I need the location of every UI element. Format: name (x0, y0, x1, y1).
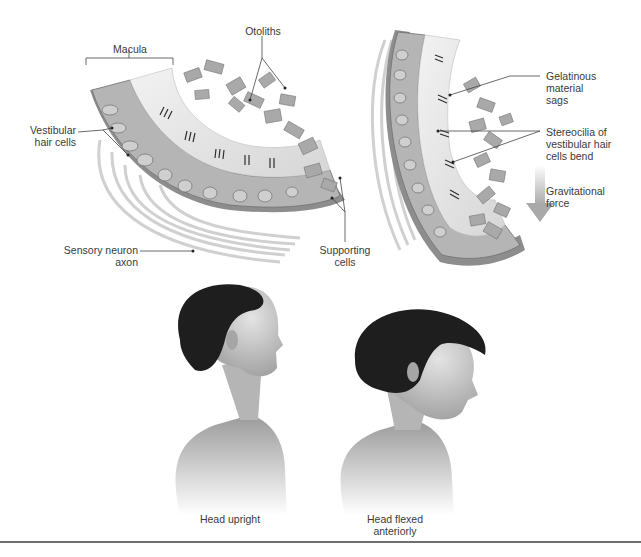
label-supporting-cells: Supporting cells (315, 244, 375, 268)
label-sensory-neuron-axon: Sensory neuron axon (45, 244, 138, 268)
label-gelatinous-material: Gelatinous material sags (546, 70, 636, 106)
macula-illustration (0, 0, 641, 557)
caption-head-upright: Head upright (180, 513, 280, 525)
bottom-divider (0, 541, 641, 543)
label-stereocilia: Stereocilia of vestibular hair cells ben… (546, 126, 641, 162)
head-flexed-illustration (341, 309, 486, 515)
label-vestibular-hair-cells: Vestibular hair cells (10, 124, 76, 148)
label-macula: Macula (105, 43, 155, 55)
label-otoliths: Otoliths (235, 25, 291, 37)
macula-upright-panel (90, 60, 345, 262)
head-upright-illustration (176, 284, 287, 515)
label-gravitational-force: Gravitational force (546, 185, 636, 209)
macula-tilted-panel (372, 30, 525, 266)
caption-head-flexed: Head flexed anteriorly (345, 513, 445, 537)
